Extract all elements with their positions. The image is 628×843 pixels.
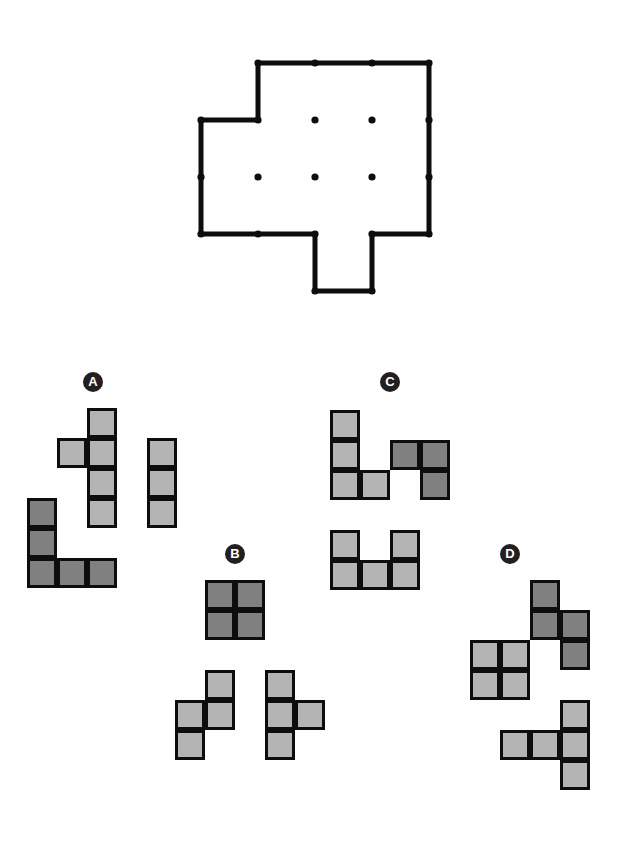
- piece-cell: [390, 530, 420, 560]
- target-shape-figure: [0, 0, 628, 340]
- option-label-a: A: [83, 372, 103, 392]
- piece-cell: [360, 560, 390, 590]
- piece-cell: [560, 730, 590, 760]
- piece-cell: [560, 700, 590, 730]
- interior-dot: [311, 116, 318, 123]
- vertex-dot: [311, 230, 318, 237]
- interior-dot: [368, 116, 375, 123]
- piece-cell: [87, 498, 117, 528]
- vertex-dot: [311, 59, 318, 66]
- interior-dot: [368, 173, 375, 180]
- interior-dot: [254, 173, 261, 180]
- piece-cell: [57, 558, 87, 588]
- piece-cell: [147, 468, 177, 498]
- piece-cell: [205, 700, 235, 730]
- piece-cell: [147, 498, 177, 528]
- vertex-dot: [368, 230, 375, 237]
- piece-cell: [205, 610, 235, 640]
- vertex-dot: [254, 116, 261, 123]
- piece-cell: [205, 580, 235, 610]
- target-outline-group: [197, 59, 432, 294]
- piece-cell: [87, 438, 117, 468]
- vertex-dot: [254, 59, 261, 66]
- piece-cell: [560, 640, 590, 670]
- piece-cell: [265, 700, 295, 730]
- piece-cell: [235, 580, 265, 610]
- piece-cell: [57, 438, 87, 468]
- vertex-dot: [197, 116, 204, 123]
- piece-cell: [235, 610, 265, 640]
- target-shape-svg: [0, 0, 628, 340]
- piece-cell: [265, 670, 295, 700]
- piece-cell: [330, 530, 360, 560]
- piece-cell: [360, 470, 390, 500]
- piece-cell: [330, 440, 360, 470]
- piece-cell: [500, 670, 530, 700]
- vertex-dot: [197, 173, 204, 180]
- piece-cell: [530, 610, 560, 640]
- piece-cell: [470, 670, 500, 700]
- vertex-dot: [425, 173, 432, 180]
- piece-cell: [330, 470, 360, 500]
- piece-cell: [87, 408, 117, 438]
- vertex-dot: [425, 230, 432, 237]
- option-label-b: B: [225, 544, 245, 564]
- piece-cell: [27, 528, 57, 558]
- interior-dot-group: [254, 116, 375, 180]
- vertex-dot: [197, 230, 204, 237]
- vertex-dot: [425, 59, 432, 66]
- vertex-dot: [368, 59, 375, 66]
- piece-cell: [295, 700, 325, 730]
- piece-cell: [560, 610, 590, 640]
- piece-cell: [265, 730, 295, 760]
- piece-cell: [390, 440, 420, 470]
- vertex-dot: [311, 287, 318, 294]
- option-label-d: D: [500, 544, 520, 564]
- piece-cell: [175, 730, 205, 760]
- piece-cell: [470, 640, 500, 670]
- interior-dot: [311, 173, 318, 180]
- piece-cell: [330, 560, 360, 590]
- piece-cell: [530, 730, 560, 760]
- piece-cell: [420, 470, 450, 500]
- piece-cell: [420, 440, 450, 470]
- piece-cell: [87, 468, 117, 498]
- option-label-c: C: [380, 372, 400, 392]
- piece-cell: [87, 558, 117, 588]
- vertex-dot: [368, 287, 375, 294]
- vertex-dot: [425, 116, 432, 123]
- piece-cell: [500, 640, 530, 670]
- piece-cell: [530, 580, 560, 610]
- vertex-dot: [254, 230, 261, 237]
- piece-cell: [27, 498, 57, 528]
- piece-cell: [560, 760, 590, 790]
- piece-cell: [205, 670, 235, 700]
- piece-cell: [500, 730, 530, 760]
- piece-cell: [147, 438, 177, 468]
- piece-cell: [27, 558, 57, 588]
- piece-cell: [330, 410, 360, 440]
- piece-cell: [175, 700, 205, 730]
- piece-cell: [390, 560, 420, 590]
